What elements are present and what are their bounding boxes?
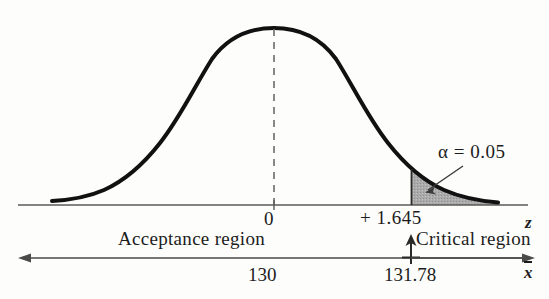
- normal-curve-hypothesis-test-figure: 0 + 1.645 z α = 0.05 Acceptance region C…: [0, 0, 549, 299]
- axis-label-xbar: x: [524, 264, 533, 281]
- tick-label-zero: 0: [264, 209, 274, 228]
- critical-region-label: Critical region: [416, 229, 531, 248]
- span-arrow-left-head: [18, 254, 31, 263]
- acceptance-region-label: Acceptance region: [118, 229, 265, 248]
- xbar-tick-label-mean: 130: [248, 265, 277, 284]
- alpha-pointer-line: [428, 166, 463, 190]
- xbar-overbar-glyph: x: [524, 264, 533, 281]
- tick-label-critical-value: + 1.645: [360, 208, 422, 227]
- alpha-annotation-label: α = 0.05: [438, 142, 505, 161]
- normal-curve: [52, 28, 498, 203]
- xbar-tick-label-critical: 131.78: [384, 265, 436, 284]
